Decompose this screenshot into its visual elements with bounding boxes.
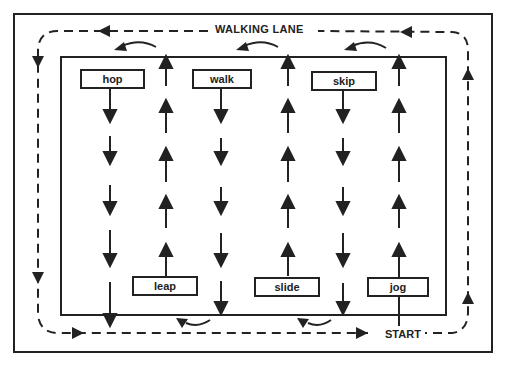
column-walk-arrows [215, 88, 227, 314]
walking-lane-label: WALKING LANE [212, 23, 307, 35]
outer-frame [14, 14, 492, 352]
curve-arrowhead-icon [344, 42, 357, 51]
lane-arrow-left-top-left [98, 25, 110, 37]
column-slide-arrows [282, 56, 294, 276]
column-leap-arrows [160, 56, 172, 276]
bottom-transition-arrows [186, 320, 331, 325]
station-slide: slide [254, 277, 320, 297]
lane-arrow-down-left-bottom [32, 272, 44, 284]
diagram-canvas [0, 0, 507, 370]
lane-arrow-right-bottom-right [356, 327, 368, 339]
lane-arrow-up-right-top [462, 68, 474, 80]
station-skip: skip [311, 71, 377, 91]
station-walk: walk [192, 69, 252, 89]
lane-arrow-right-bottom-left [72, 327, 84, 339]
activity-course-diagram: WALKING LANE START hop leap walk slide s… [0, 0, 507, 370]
curve-arrowhead-icon [297, 318, 309, 328]
curve-arrowhead-icon [114, 42, 127, 51]
station-jog: jog [367, 277, 429, 297]
start-label: START [381, 328, 425, 340]
station-hop: hop [80, 69, 145, 89]
top-transition-arrows [122, 42, 386, 48]
lane-arrow-left-top-right [400, 26, 412, 38]
station-leap: leap [132, 276, 198, 296]
column-hop-arrows [104, 88, 116, 326]
lane-arrow-up-right-bottom [462, 292, 474, 304]
curve-arrowhead-icon [236, 42, 249, 51]
lane-arrow-down-left-top [32, 56, 44, 68]
column-skip-arrows [337, 90, 349, 314]
